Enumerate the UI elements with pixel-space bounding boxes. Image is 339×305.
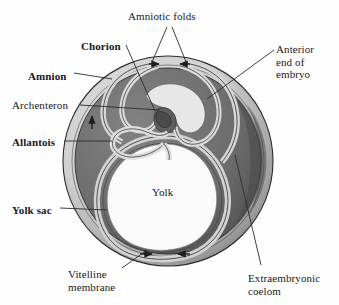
label-archenteron: Archenteron	[12, 99, 68, 112]
label-amnion: Amnion	[28, 70, 67, 83]
label-allantois: Allantois	[12, 136, 55, 149]
label-chorion: Chorion	[81, 40, 121, 53]
label-anterior-end-of-embryo: Anterior end of embryo	[276, 43, 314, 81]
label-amniotic-folds: Amniotic folds	[128, 10, 196, 23]
label-extraembryonic-coelom: Extraembryonic coelom	[248, 272, 320, 297]
label-vitelline-membrane: Vitelline membrane	[68, 268, 115, 293]
label-yolk: Yolk	[152, 186, 173, 199]
embryo-membranes-figure: Amniotic folds Chorion Amnion Archentero…	[0, 0, 339, 305]
label-yolk-sac: Yolk sac	[12, 204, 52, 217]
